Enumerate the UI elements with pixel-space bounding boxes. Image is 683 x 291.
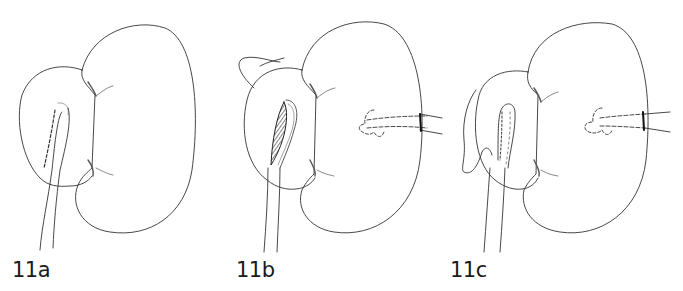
renal-pelvis [19,67,92,187]
pyelotomy-incision [271,102,287,165]
kidney-illustration-11a [0,0,230,291]
figure-panel-11b: 11b [222,0,452,291]
tube-flange [359,110,384,137]
panel-label: 11c [450,258,487,282]
tube-flange [585,108,612,135]
renal-pelvis [475,71,538,189]
figure-panel-11c: 11c [450,0,683,291]
ureter [484,168,490,252]
kidney-outline [523,23,648,233]
panel-label: 11a [12,258,50,282]
nephrostomy-tube [600,114,645,128]
nephrostomy-tube [367,116,427,128]
ureter [264,168,268,252]
kidney-outline [300,22,422,233]
kidney-outline [76,25,196,233]
kidney-illustration-11b [222,0,452,291]
panel-label: 11b [236,258,275,282]
stay-suture [239,57,284,88]
figure-panel-11a: 11a [0,0,230,291]
kidney-illustration-11c [450,0,683,291]
